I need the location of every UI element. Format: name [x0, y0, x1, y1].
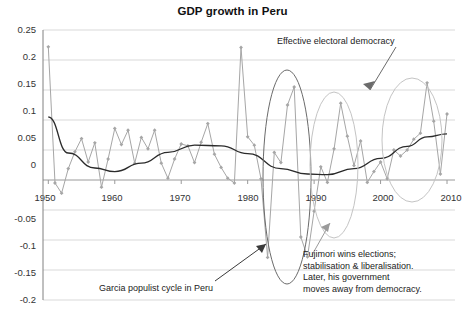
chart-container: GDP growth in Peru 0.25 0.2 0.15 0.1 0.0…	[0, 0, 465, 332]
ellipse-fujimori-annotation	[310, 92, 358, 238]
democracy-arrow	[363, 47, 396, 90]
annotation-garcia-populist-cycle: Garcia populist cycle in Peru	[99, 283, 213, 295]
trend-line	[48, 117, 447, 175]
annotation-effective-electoral-democracy: Effective electoral democracy	[277, 36, 394, 48]
fujimori-note-line: Later, his government	[303, 272, 422, 284]
data-point-markers	[46, 45, 449, 259]
fujimori-note-line: Fujimori wins elections;	[303, 249, 422, 261]
ellipse-democracy-annotation	[382, 78, 442, 202]
annotation-fujimori-note: Fujimori wins elections; stabilisation &…	[303, 249, 422, 295]
data-series-line	[48, 47, 447, 258]
garcia-arrow	[215, 244, 266, 281]
fujimori-note-line: moves away from democracy.	[303, 284, 422, 296]
fujimori-note-line: stabilisation & liberalisation.	[303, 261, 422, 273]
